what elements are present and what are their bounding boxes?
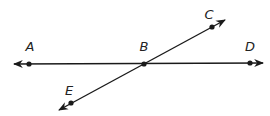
label-C: C	[204, 7, 214, 22]
label-D: D	[245, 39, 255, 54]
points-layer	[26, 24, 252, 105]
labels-layer: ABDCE	[25, 7, 255, 98]
lines-layer	[14, 20, 263, 110]
geometry-diagram: ABDCE	[0, 0, 270, 116]
label-B: B	[140, 39, 149, 54]
point-B	[141, 61, 146, 66]
point-D	[247, 60, 252, 65]
point-A	[26, 61, 31, 66]
point-E	[68, 100, 73, 105]
label-E: E	[65, 83, 74, 98]
point-C	[209, 24, 214, 29]
line-AD	[14, 63, 263, 64]
label-A: A	[25, 39, 35, 54]
